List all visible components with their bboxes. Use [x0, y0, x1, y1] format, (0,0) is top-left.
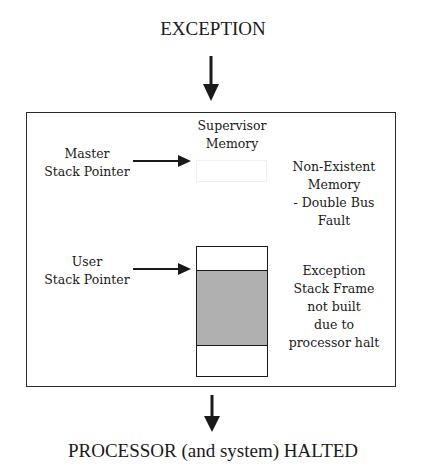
note-line: Non-Existent [278, 158, 390, 176]
note-line: Stack Frame [276, 280, 392, 298]
note-line: Exception [276, 262, 392, 280]
note-line: Fault [278, 212, 390, 230]
bottom-down-arrow-icon [204, 395, 220, 432]
top-down-arrow-icon [203, 56, 219, 101]
note-line: processor halt [276, 334, 392, 352]
exception-stack-frame-shaded [197, 270, 267, 346]
note-line: - Double Bus [278, 194, 390, 212]
supervisor-memory-block [196, 160, 267, 182]
master-stack-pointer-label: Master Stack Pointer [32, 145, 142, 181]
non-existent-memory-note: Non-Existent Memory - Double Bus Fault [278, 158, 390, 230]
supervisor-title-line1: Supervisor [176, 117, 288, 135]
processor-halted-label: PROCESSOR (and system) HALTED [0, 440, 426, 462]
master-label-line2: Stack Pointer [32, 163, 142, 181]
user-stack-block [196, 246, 268, 377]
supervisor-memory-title: Supervisor Memory [176, 117, 288, 153]
user-label-line2: Stack Pointer [32, 271, 142, 289]
user-stack-pointer-label: User Stack Pointer [32, 253, 142, 289]
note-line: not built [276, 298, 392, 316]
master-label-line1: Master [32, 145, 142, 163]
stack-frame-note: Exception Stack Frame not built due to p… [276, 262, 392, 352]
user-label-line1: User [32, 253, 142, 271]
note-line: due to [276, 316, 392, 334]
supervisor-title-line2: Memory [176, 135, 288, 153]
note-line: Memory [278, 176, 390, 194]
